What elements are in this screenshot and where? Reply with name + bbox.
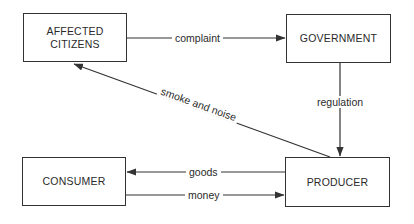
node-affected-citizens: AFFECTED CITIZENS	[23, 13, 127, 62]
node-producer-label: PRODUCER	[307, 176, 369, 189]
node-affected-citizens-line1: AFFECTED	[46, 25, 103, 38]
node-producer: PRODUCER	[285, 157, 390, 207]
node-consumer-label: CONSUMER	[43, 175, 106, 188]
node-government-label: GOVERNMENT	[300, 32, 377, 45]
edge-label-goods: goods	[186, 166, 221, 178]
node-government: GOVERNMENT	[286, 14, 391, 63]
node-consumer: CONSUMER	[22, 157, 126, 206]
node-affected-citizens-line2: CITIZENS	[46, 38, 103, 51]
edge-label-regulation: regulation	[314, 96, 366, 108]
edge-label-money: money	[185, 189, 223, 201]
edge-label-complaint: complaint	[172, 32, 223, 44]
